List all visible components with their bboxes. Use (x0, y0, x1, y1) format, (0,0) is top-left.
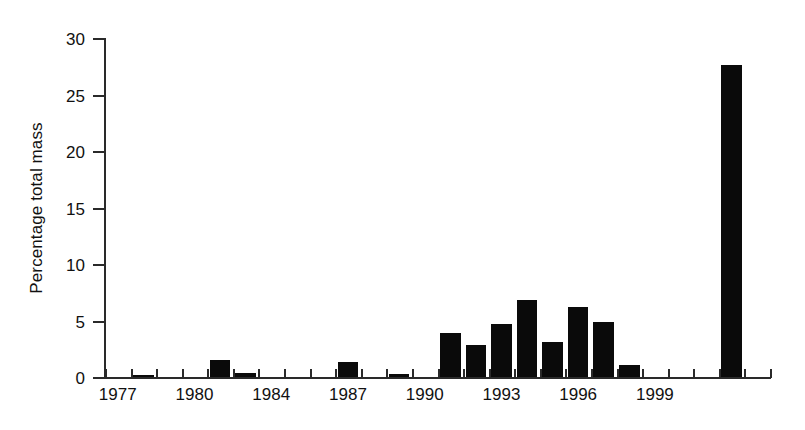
x-axis-tick-label: 1993 (483, 386, 521, 403)
x-axis-tick (182, 369, 184, 378)
y-axis-label: Percentage total mass (22, 38, 52, 378)
bar (721, 65, 742, 377)
bar (235, 373, 256, 377)
x-axis-tick-label: 1984 (252, 386, 290, 403)
y-axis-tick-label: 30 (66, 31, 93, 48)
y-axis-tick: 5 (93, 321, 104, 323)
y-axis-tick-label: 25 (66, 87, 93, 104)
x-axis-tick (412, 369, 414, 378)
y-axis-tick: 25 (93, 95, 104, 97)
bar (542, 342, 563, 377)
x-axis-tick (642, 369, 644, 378)
x-axis-tick (744, 369, 746, 378)
x-axis-tick (156, 369, 158, 378)
y-axis-tick: 0 (93, 377, 104, 379)
x-axis-tick-label: 1977 (99, 386, 137, 403)
x-axis-tick-label: 1990 (406, 386, 444, 403)
bar (210, 360, 231, 377)
y-axis-tick-label: 10 (66, 257, 93, 274)
bar (619, 365, 640, 377)
bar (517, 300, 538, 377)
x-axis-tick (668, 369, 670, 378)
x-axis-tick-label: 1996 (559, 386, 597, 403)
x-axis-tick (361, 369, 363, 378)
x-axis-tick (258, 369, 260, 378)
y-axis-tick: 10 (93, 264, 104, 266)
bar (568, 307, 589, 377)
y-axis-tick: 30 (93, 38, 104, 40)
y-axis-tick-label: 20 (66, 144, 93, 161)
x-axis-tick (105, 369, 107, 378)
x-axis-tick-label: 1980 (176, 386, 214, 403)
y-axis-tick: 20 (93, 151, 104, 153)
bar (440, 333, 461, 377)
bar (491, 324, 512, 377)
bar (133, 375, 154, 377)
x-axis-tick (770, 369, 772, 378)
bar-chart-figure: Percentage total mass 051015202530 19771… (0, 0, 805, 430)
x-axis-tick (693, 369, 695, 378)
y-axis-tick: 15 (93, 208, 104, 210)
y-axis-tick-label: 15 (66, 200, 93, 217)
x-axis-tick (310, 369, 312, 378)
bar (593, 322, 614, 377)
x-axis-tick-label: 1987 (329, 386, 367, 403)
y-axis-tick-label: 5 (76, 313, 93, 330)
x-axis-tick (284, 369, 286, 378)
y-axis-line (104, 38, 106, 379)
bar (389, 374, 410, 377)
bar (466, 345, 487, 377)
y-axis-tick-label: 0 (76, 370, 93, 387)
bar (338, 362, 359, 377)
x-axis-tick-label: 1999 (636, 386, 674, 403)
